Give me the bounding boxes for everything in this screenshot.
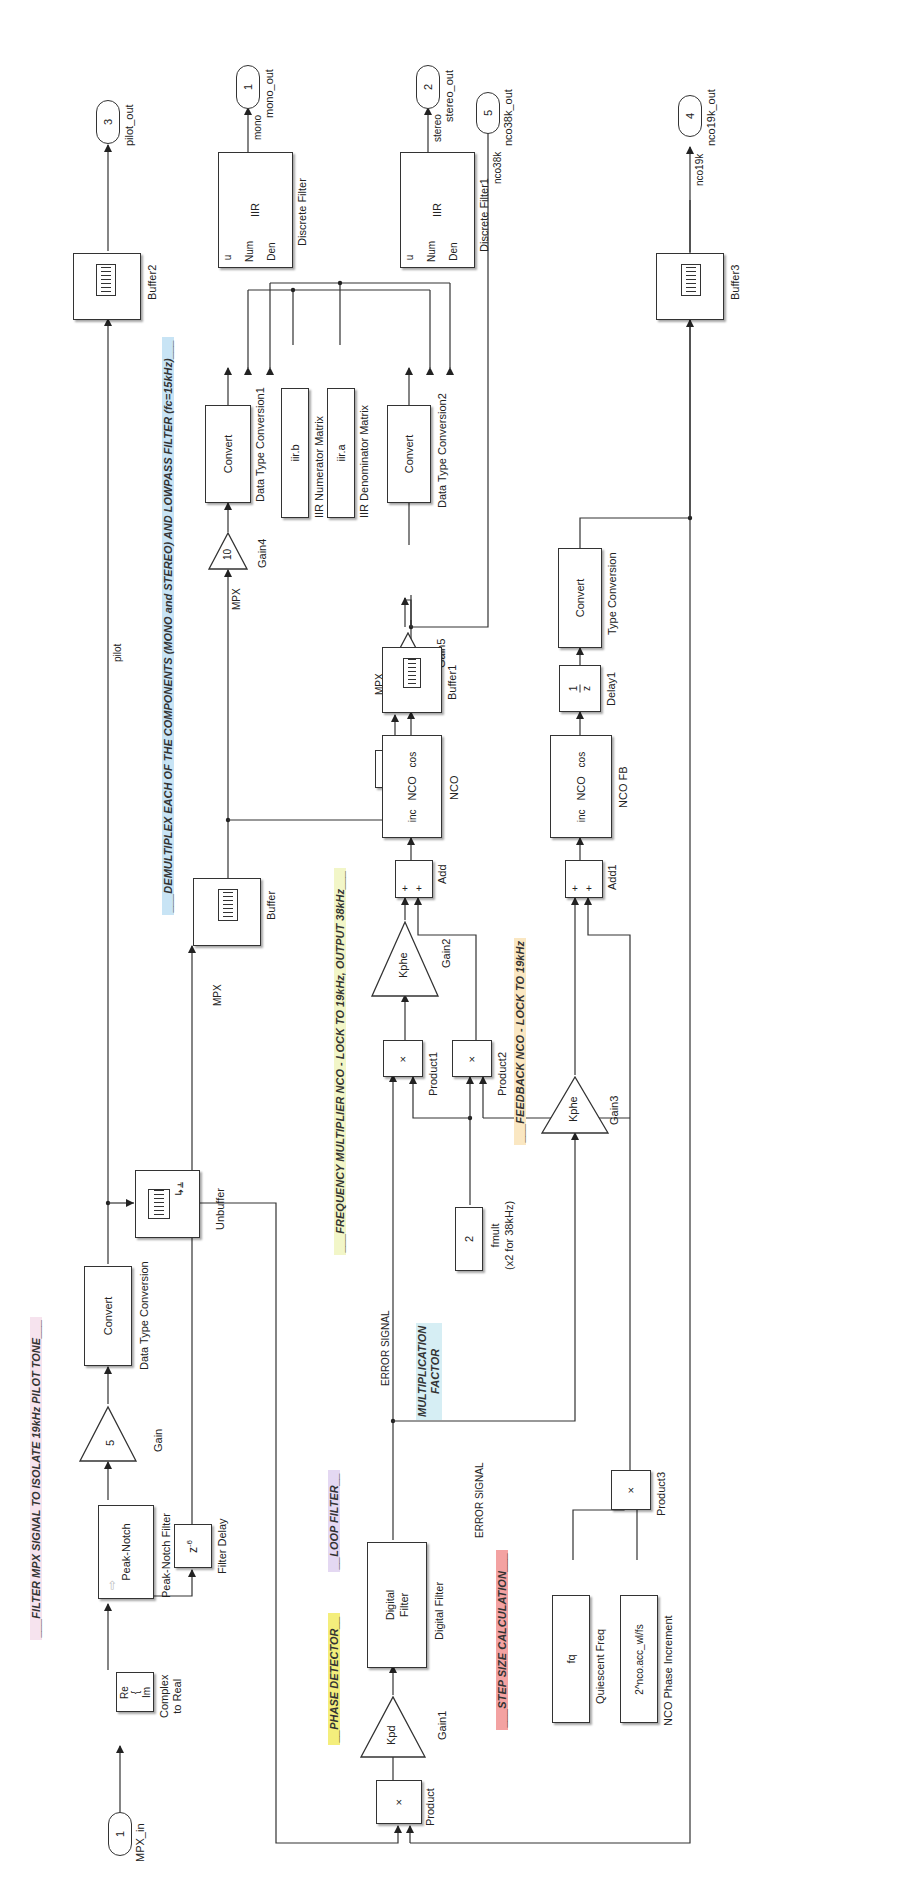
block-product2[interactable]: × <box>452 1040 492 1077</box>
gain1-value: Kpd <box>385 1725 397 1745</box>
outport-pilot-out-label: pilot_out <box>123 104 135 146</box>
product2-label: Product2 <box>496 1052 508 1096</box>
outport-nco19k-out-label: nco19k_out <box>705 89 717 146</box>
gain4-value: 10 <box>222 549 233 560</box>
inport-mpx-in-label: MPX_in <box>134 1823 146 1862</box>
discrete-filter1-label: Discrete Filter1 <box>478 178 490 252</box>
gain4-label: Gain4 <box>256 539 268 568</box>
outport-stereo-out[interactable]: 2 <box>416 65 440 109</box>
dtc1-label: Data Type Conversion1 <box>254 387 266 502</box>
block-unbuffer[interactable]: ↳⫨ <box>135 1170 200 1238</box>
block-text: IIR <box>432 203 444 217</box>
block-peak-notch-filter[interactable]: Peak-Notch ⇨ <box>98 1505 154 1599</box>
block-buffer2[interactable] <box>73 253 141 320</box>
unbuffer-icon <box>148 1189 170 1219</box>
port-number: 1 <box>114 1831 126 1837</box>
im-port-label: Im <box>140 1686 151 1699</box>
port-u: u <box>222 255 233 261</box>
block-fmult[interactable]: 2 <box>455 1207 483 1271</box>
port-u: u <box>404 255 415 261</box>
signal-label-pilot: pilot <box>112 644 123 662</box>
buffer-icon <box>96 264 116 296</box>
block-iir-denominator[interactable]: iir.a <box>327 388 355 518</box>
plus-port-1: + <box>402 883 408 894</box>
annotation-mult-factor: MULTIPLICATION FACTOR <box>416 1323 442 1420</box>
complex-to-real-label: Complex to Real <box>158 1675 184 1718</box>
add1-label: Add1 <box>606 864 618 890</box>
product-label: Product <box>424 1788 436 1826</box>
block-gain[interactable] <box>78 1405 138 1463</box>
block-data-type-conversion[interactable]: Convert <box>84 1266 132 1366</box>
block-filter-delay[interactable]: z-6 <box>174 1524 212 1568</box>
gain-label: Gain <box>152 1429 164 1452</box>
annotation-step-size: ___STEP SIZE CALCULATION___ <box>496 1550 508 1730</box>
block-product3[interactable]: × <box>611 1470 651 1510</box>
block-add1[interactable]: + + <box>565 860 603 898</box>
outport-nco19k-out[interactable]: 4 <box>678 95 702 137</box>
block-text: iir.a <box>335 444 347 461</box>
outport-mono-out[interactable]: 1 <box>236 65 260 109</box>
block-data-type-conversion2[interactable]: Convert <box>387 405 431 503</box>
annotation-loop-filter: __LOOP FILTER__ <box>328 1470 340 1572</box>
outport-nco38k-out[interactable]: 5 <box>476 92 500 134</box>
block-text: Convert <box>403 435 415 474</box>
block-data-type-conversion1[interactable]: Convert <box>205 405 251 503</box>
re-port-label: Re <box>118 1686 129 1699</box>
label-line1: Complex <box>158 1675 171 1718</box>
port-number: 5 <box>482 110 494 116</box>
block-iir-numerator[interactable]: iir.b <box>281 388 309 518</box>
multiply-icon: × <box>400 1053 406 1065</box>
gain3-label: Gain3 <box>608 1096 620 1125</box>
block-digital-filter[interactable]: Digital Filter <box>367 1542 427 1668</box>
port-num: Num <box>426 241 437 262</box>
mult-factor-line2: FACTOR <box>429 1326 442 1417</box>
plus-port-2: + <box>416 883 422 894</box>
outport-pilot-out[interactable]: 3 <box>96 100 120 144</box>
block-buffer1[interactable] <box>382 647 442 713</box>
block-nco[interactable]: inc NCO cos <box>382 735 442 838</box>
outport-nco38k-out-label: nco38k_out <box>502 89 514 146</box>
block-delay1[interactable]: 1 z <box>559 665 601 712</box>
digital-filter-label: Digital Filter <box>433 1582 445 1640</box>
buffer1-label: Buffer1 <box>446 665 458 700</box>
label-line2: to Real <box>171 1675 184 1718</box>
nco-phase-increment-label: NCO Phase Increment <box>662 1615 674 1726</box>
block-discrete-filter[interactable]: IIR u Num Den <box>218 152 293 268</box>
block-complex-to-real[interactable]: Re { Im <box>116 1672 154 1712</box>
fmult-label: fmult (x2 for 38kHz) <box>488 1201 516 1270</box>
inport-mpx-in[interactable]: 1 <box>108 1812 132 1856</box>
filter-delay-label: Filter Delay <box>216 1518 228 1574</box>
multiply-icon: × <box>628 1484 634 1496</box>
block-product1[interactable]: × <box>383 1040 423 1077</box>
buffer3-label: Buffer3 <box>729 265 741 300</box>
quiescent-freq-label: Quiescent Freq <box>594 1629 606 1704</box>
block-type-conversion[interactable]: Convert <box>558 548 602 648</box>
discrete-filter-label: Discrete Filter <box>296 178 308 246</box>
port-num: Num <box>244 241 255 262</box>
block-buffer3[interactable] <box>656 253 724 320</box>
block-nco-fb[interactable]: inc NCO cos <box>550 735 612 838</box>
peak-notch-label: Peak-Notch Filter <box>160 1513 172 1598</box>
product3-label: Product3 <box>655 1472 667 1516</box>
block-discrete-filter1[interactable]: IIR u Num Den <box>400 152 475 268</box>
buffer-icon <box>218 889 238 921</box>
gain3-value: Kphe <box>567 1096 579 1122</box>
signal-label-error1: ERROR SIGNAL <box>380 1310 391 1386</box>
split-icon: { <box>129 1686 140 1699</box>
signal-label-stereo: stereo <box>432 114 443 142</box>
multiply-icon: × <box>469 1053 475 1065</box>
annotation-filter-mpx: ___FILTER MPX SIGNAL TO ISOLATE 19kHz PI… <box>30 1317 42 1640</box>
block-buffer[interactable] <box>193 878 261 946</box>
buffer-icon <box>403 658 421 688</box>
block-text: Convert <box>222 435 234 474</box>
block-quiescent-freq[interactable]: fq <box>552 1595 590 1723</box>
iir-numerator-label: IIR Numerator Matrix <box>313 416 325 518</box>
block-add[interactable]: + + <box>395 860 433 898</box>
unbuffer-label: Unbuffer <box>214 1188 226 1230</box>
product1-label: Product1 <box>427 1052 439 1096</box>
block-nco-phase-increment[interactable]: 2^nco.acc_wl/fs <box>620 1595 658 1723</box>
block-text: inc NCO cos <box>575 751 587 821</box>
block-product[interactable]: × <box>376 1780 422 1824</box>
mult-factor-line1: MULTIPLICATION <box>416 1326 429 1417</box>
port-number: 1 <box>242 84 254 90</box>
